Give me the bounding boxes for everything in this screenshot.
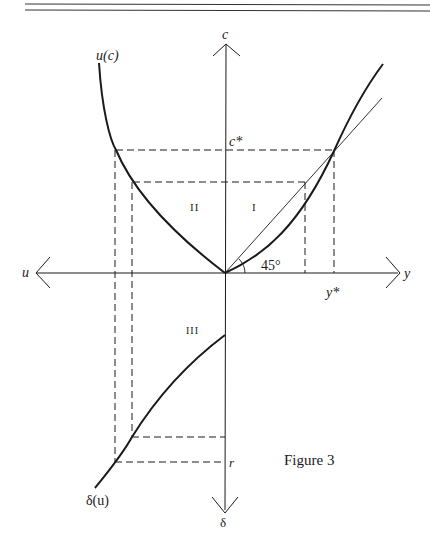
discount-curve — [95, 335, 225, 488]
header-rule-top — [25, 4, 430, 5]
figure-caption: Figure 3 — [284, 452, 334, 468]
y-star-label: y* — [324, 285, 339, 300]
axes — [36, 44, 400, 513]
dashed-guides — [115, 150, 334, 462]
angle-label: 45° — [261, 258, 281, 273]
production-curve — [225, 64, 383, 273]
header-rule-bottom — [25, 10, 430, 11]
quadrant-ii-label: II — [190, 201, 199, 213]
r-label: r — [229, 455, 235, 470]
c-star-label: c* — [229, 134, 242, 149]
delta-axis-label: δ — [220, 515, 226, 530]
forty-five-degree-line — [225, 98, 382, 273]
u-axis-label: u — [22, 265, 29, 280]
vertical-axis — [225, 44, 226, 510]
header-rules — [25, 4, 430, 11]
four-quadrant-diagram: c y u δ u(c) δ(u) c* y* r 45° II I III F… — [0, 0, 430, 558]
utility-curve — [99, 63, 225, 273]
y-axis-label: y — [402, 266, 411, 281]
curves — [95, 63, 383, 488]
c-axis-label: c — [222, 27, 229, 42]
discount-curve-label: δ(u) — [86, 493, 109, 509]
quadrant-i-label: I — [252, 201, 256, 213]
utility-curve-label: u(c) — [96, 48, 119, 64]
c-axis-arrowhead-icon — [213, 44, 240, 56]
quadrant-iii-label: III — [186, 325, 199, 336]
